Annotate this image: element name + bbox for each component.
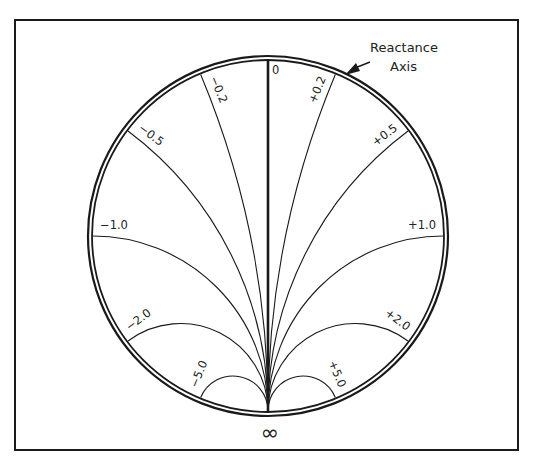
smith-chart-diagram: +0.2+0.5+1.0+2.0+5.0−0.2−0.5−1.0−2.0−5.0… xyxy=(0,0,535,465)
annotation-line2: Axis xyxy=(390,59,417,74)
reactance-label: +1.0 xyxy=(408,218,436,232)
zero-label: 0 xyxy=(272,63,279,77)
annotation-line1: Reactance xyxy=(370,40,438,55)
reactance-label: −1.0 xyxy=(100,218,128,232)
infinity-label: ∞ xyxy=(261,420,279,445)
